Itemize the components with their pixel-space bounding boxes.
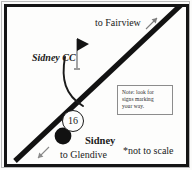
map-figure: to Fairview Sidney CC 16 Sidney to Glend… (0, 0, 192, 170)
note-line: your way. (122, 103, 169, 110)
note-line: Note: look for (122, 89, 169, 96)
label-sidney-cc: Sidney CC (32, 53, 76, 64)
label-to-fairview: to Fairview (95, 18, 141, 29)
map-frame-border: to Fairview Sidney CC 16 Sidney to Glend… (4, 4, 189, 167)
label-sidney-city: Sidney (85, 135, 115, 146)
note-line: signs marking (122, 96, 169, 103)
label-to-glendive: to Glendive (60, 150, 107, 161)
glendive-direction-arrow-icon (38, 147, 49, 158)
note-callout-box: Note: look for signs marking your way. (117, 85, 173, 115)
highway-shield-16: 16 (62, 110, 84, 132)
golf-flag-banner-icon (77, 38, 89, 51)
label-not-to-scale: *not to scale (123, 146, 174, 157)
